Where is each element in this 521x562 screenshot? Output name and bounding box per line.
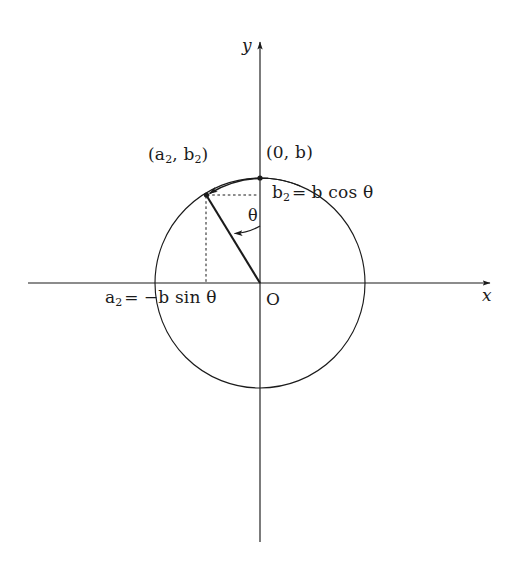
point-on-circle-marker (204, 192, 209, 197)
cos-relation-label: b2=b cos θ (272, 184, 373, 203)
x-axis-label: x (482, 285, 492, 305)
sin-lhs-symbol: a (105, 287, 115, 307)
sin-rhs-expression: −b sin θ (141, 287, 217, 307)
arc-to-point (210, 178, 269, 193)
point-close-paren: ) (202, 144, 209, 164)
point-comma: , (172, 144, 183, 164)
point-a-symbol: a (155, 144, 165, 164)
cos-rhs-expression: b cos θ (309, 182, 374, 202)
point-coordinates-label: (a2, b2) (148, 146, 208, 165)
sin-relation-label: a2=−b sin θ (105, 289, 217, 308)
origin-label: O (266, 289, 280, 309)
cos-equals-sign: = (290, 182, 308, 202)
theta-arc (235, 226, 261, 234)
math-diagram: y x O θ (a2, b2) (0, b) b2=b cos θ a2=−b… (0, 0, 521, 562)
top-point-marker (257, 175, 262, 180)
point-b-symbol: b (183, 144, 194, 164)
top-point-label: (0, b) (266, 144, 313, 161)
cos-lhs-symbol: b (272, 182, 283, 202)
theta-label: θ (248, 206, 258, 225)
diagram-canvas (0, 0, 521, 562)
sin-equals-sign: = (122, 287, 140, 307)
point-open-paren: ( (148, 144, 155, 164)
point-b-subscript: 2 (195, 153, 202, 166)
y-axis-label: y (242, 35, 252, 55)
